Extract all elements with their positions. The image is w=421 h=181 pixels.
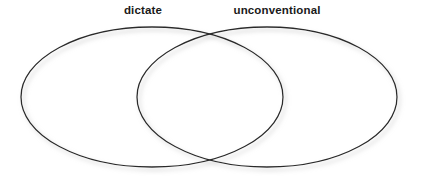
venn-circle-left	[21, 27, 283, 167]
venn-diagram-canvas	[0, 0, 421, 181]
venn-label-left: dictate	[124, 4, 162, 16]
venn-ellipse-group	[21, 27, 397, 167]
venn-circle-right	[137, 27, 397, 167]
venn-diagram: dictate unconventional	[0, 0, 421, 181]
venn-label-right: unconventional	[233, 4, 320, 16]
